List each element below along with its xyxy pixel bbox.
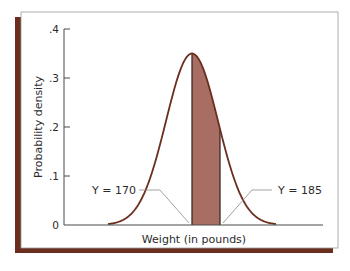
annotation-label-right: Y = 185: [277, 184, 322, 197]
annotation-label-left: Y = 170: [91, 184, 136, 197]
y-tick-label: .2: [49, 121, 59, 133]
y-tick-label: .3: [49, 72, 59, 84]
y-tick-label: .4: [49, 23, 59, 35]
x-axis-title: Weight (in pounds): [142, 233, 246, 246]
y-tick-label: 0: [52, 219, 59, 231]
y-tick-label: .1: [49, 170, 59, 182]
y-axis-title: Probability density: [32, 76, 45, 178]
chart-figure: 0.1.2.3.4 Probability density Weight (in…: [0, 0, 350, 271]
